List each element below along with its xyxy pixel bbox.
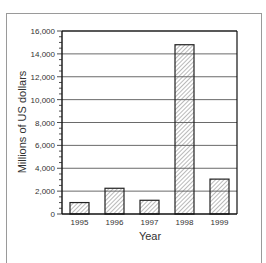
gridlines (62, 31, 237, 191)
y-axis-ticks: 02,0004,0006,0008,00010,00012,00014,0001… (31, 27, 62, 219)
x-tick-label: 1998 (176, 218, 194, 227)
x-axis-label: Year (139, 230, 162, 242)
y-tick-label: 12,000 (31, 73, 56, 82)
y-tick-label: 10,000 (31, 96, 56, 105)
y-tick-label: 16,000 (31, 27, 56, 36)
x-tick-label: 1995 (71, 218, 89, 227)
bars (70, 45, 229, 214)
y-tick-label: 2,000 (35, 187, 56, 196)
y-tick-label: 0 (51, 210, 56, 219)
bar-1997 (140, 200, 159, 214)
bar-1995 (70, 203, 89, 214)
y-tick-label: 4,000 (35, 164, 56, 173)
bar-1996 (105, 188, 124, 214)
bar-1999 (210, 179, 229, 214)
x-tick-label: 1997 (141, 218, 159, 227)
bar-1998 (175, 45, 194, 214)
y-tick-label: 8,000 (35, 119, 56, 128)
y-axis-label: Millions of US dollars (16, 70, 28, 173)
x-tick-label: 1999 (211, 218, 229, 227)
x-axis-ticks: 19951996199719981999 (71, 218, 229, 227)
y-tick-label: 6,000 (35, 141, 56, 150)
x-tick-label: 1996 (106, 218, 124, 227)
y-tick-label: 14,000 (31, 50, 56, 59)
